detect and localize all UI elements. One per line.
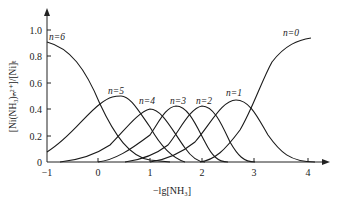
svg-text:1: 1	[148, 167, 153, 178]
y-axis-label: [Ni(NH₃)ₙ²⁺]/[Ni]ₜ	[8, 60, 19, 133]
svg-text:0.2: 0.2	[30, 131, 43, 142]
svg-text:2: 2	[200, 167, 205, 178]
curve-n4	[60, 109, 205, 162]
svg-text:0.6: 0.6	[30, 78, 43, 89]
svg-text:0.4: 0.4	[30, 104, 43, 115]
label-n0: n=0	[283, 28, 299, 38]
x-tick-labels: −1 0 1 2 3 4	[42, 167, 311, 178]
curve-n0	[200, 38, 311, 162]
y-ticks	[47, 30, 51, 136]
label-n2: n=2	[196, 96, 212, 106]
x-axis-label: −lg[NH₃]	[153, 185, 191, 196]
svg-text:0: 0	[96, 167, 101, 178]
label-n3: n=3	[170, 96, 186, 106]
curve-n5	[47, 96, 185, 162]
y-tick-labels: 0 0.2 0.4 0.6 0.8 1.0	[30, 25, 43, 168]
svg-text:−1: −1	[42, 167, 53, 178]
curve-n3	[98, 106, 228, 162]
y-axis-arrow-icon	[44, 8, 50, 16]
x-axis-arrow-icon	[322, 159, 330, 165]
label-n5: n=5	[108, 86, 124, 96]
svg-text:4: 4	[306, 167, 311, 178]
svg-text:0.8: 0.8	[30, 51, 43, 62]
label-n1: n=1	[226, 88, 242, 98]
svg-text:3: 3	[252, 167, 257, 178]
curve-labels: n=6 n=5 n=4 n=3 n=2 n=1 n=0	[49, 28, 299, 106]
label-n4: n=4	[139, 96, 155, 106]
chart: 0 0.2 0.4 0.6 0.8 1.0 −1 0 1 2 3 4 −lg[N…	[0, 0, 342, 204]
svg-text:1.0: 1.0	[30, 25, 43, 36]
curve-n1	[150, 100, 315, 162]
label-n6: n=6	[49, 32, 65, 42]
